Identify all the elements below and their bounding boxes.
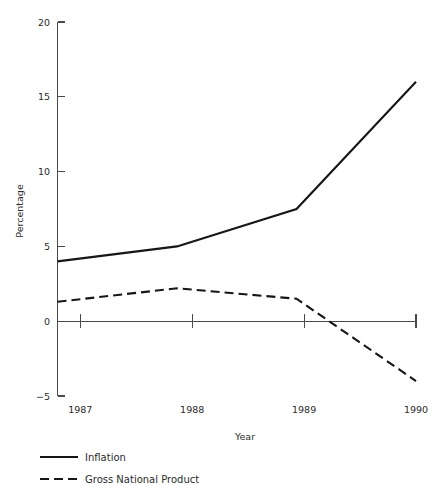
x-axis-title: Year <box>234 431 255 442</box>
legend-item-inflation[interactable]: Inflation <box>40 452 126 463</box>
legend-label-inflation: Inflation <box>85 452 126 463</box>
chart-canvas: 20 15 10 5 0 −5 Percentage 1987 1988 198… <box>0 0 444 491</box>
y-axis: 20 15 10 5 0 −5 Percentage <box>14 17 65 402</box>
x-tick-label-1989: 1989 <box>292 404 316 415</box>
series-line-gross-national-product <box>58 288 417 381</box>
x-tick-label-1987: 1987 <box>68 404 92 415</box>
legend-item-gross-national-product[interactable]: Gross National Product <box>40 474 199 485</box>
y-tick-label-minus5: −5 <box>36 391 50 402</box>
y-tick-label-5: 5 <box>44 241 50 252</box>
y-tick-label-15: 15 <box>38 91 50 102</box>
legend: Inflation Gross National Product <box>40 452 199 485</box>
x-tick-label-1988: 1988 <box>180 404 204 415</box>
x-axis: 1987 1988 1989 1990 Year <box>58 314 429 442</box>
x-tick-label-1990: 1990 <box>404 404 428 415</box>
series-group <box>58 82 417 381</box>
series-line-inflation <box>58 82 417 262</box>
y-tick-label-20: 20 <box>38 17 50 28</box>
line-chart: 20 15 10 5 0 −5 Percentage 1987 1988 198… <box>0 0 444 491</box>
y-axis-title: Percentage <box>14 184 25 238</box>
y-tick-label-10: 10 <box>38 166 50 177</box>
y-tick-label-0: 0 <box>44 316 50 327</box>
legend-label-gross-national-product: Gross National Product <box>85 474 199 485</box>
